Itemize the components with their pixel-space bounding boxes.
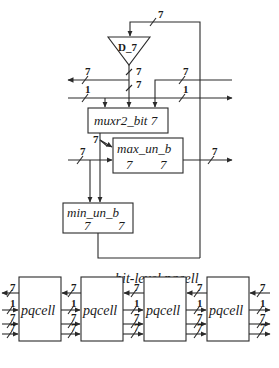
max-out-width: 7	[212, 145, 218, 157]
svg-text:7: 7	[10, 281, 16, 293]
svg-text:7: 7	[71, 321, 77, 333]
bus-7-right-label: 7	[183, 65, 189, 77]
svg-text:7: 7	[10, 321, 16, 333]
bus-7-left-label: 7	[85, 65, 91, 77]
max-port-a: 7	[126, 157, 133, 172]
register-out-width: 7	[136, 65, 142, 77]
svg-text:7: 7	[134, 321, 140, 333]
loop-width-label: 7	[158, 8, 164, 20]
bus-7-right-wire	[155, 80, 232, 107]
svg-text:7: 7	[197, 281, 203, 293]
max-sel-width: 7	[93, 133, 99, 145]
max-in-width: 7	[80, 145, 86, 157]
mux-label: muxr2_bit 7	[94, 113, 158, 128]
svg-text:1: 1	[71, 297, 77, 309]
min-port-b: 7	[118, 218, 125, 233]
svg-text:1: 1	[197, 297, 203, 309]
svg-text:1: 1	[260, 297, 266, 309]
max-label: max_un_b	[117, 141, 172, 156]
svg-text:7: 7	[260, 281, 266, 293]
svg-text:7: 7	[197, 321, 203, 333]
min-label: min_un_b	[67, 205, 120, 220]
svg-text:7: 7	[260, 321, 266, 333]
svg-text:1: 1	[10, 297, 16, 309]
diagram-canvas: 7 D_7 7 7 7 7 1 1 muxr2_bit 7 7 7 max_un…	[0, 0, 279, 368]
max-port-b: 7	[160, 157, 167, 172]
register-label: D_7	[118, 41, 137, 53]
svg-text:7: 7	[134, 281, 140, 293]
pqcell-4-label: pqcell	[208, 303, 243, 318]
pqcell-1-label: pqcell	[20, 303, 55, 318]
svg-text:7: 7	[71, 281, 77, 293]
pqcell-3-label: pqcell	[145, 303, 180, 318]
bus-1-left-label: 1	[85, 83, 91, 95]
register-out-width-2: 7	[136, 78, 142, 90]
svg-text:1: 1	[134, 297, 140, 309]
min-port-a: 7	[84, 218, 91, 233]
bus-1-right-label: 1	[183, 83, 189, 95]
pqcell-2-label: pqcell	[82, 303, 117, 318]
